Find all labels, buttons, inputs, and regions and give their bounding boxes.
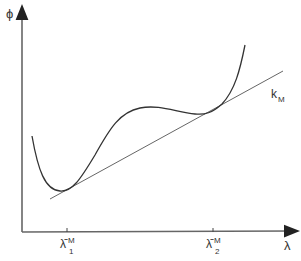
phi-curve <box>32 45 245 191</box>
tick2-base: λ̄ <box>206 237 214 251</box>
tick1-sub: 1 <box>69 247 74 256</box>
x-axis <box>22 231 292 232</box>
line-label-k: k <box>271 87 278 101</box>
tick1-base: λ̄ <box>60 237 68 251</box>
tick2-sub: 2 <box>215 247 220 256</box>
diagram-canvas: ϕ λ k M λ̄ M 1 λ̄ M 2 <box>0 0 301 261</box>
tick1-sup: M <box>68 236 75 245</box>
tangent-line-kM <box>50 71 283 199</box>
line-label-sub: M <box>278 95 285 104</box>
tick2-sup: M <box>214 236 221 245</box>
x-axis-label: λ <box>284 238 291 253</box>
y-axis-label: ϕ <box>6 6 13 21</box>
